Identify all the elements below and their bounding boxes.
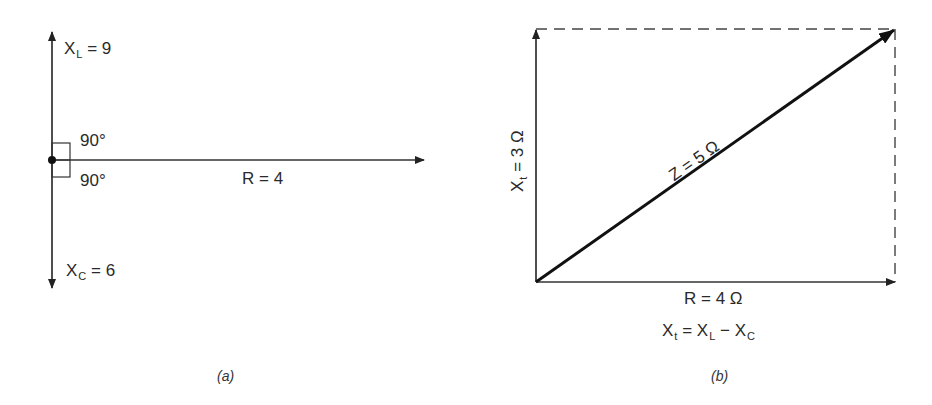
- panel-a: [48, 32, 424, 288]
- xt-formula: Xt = XL − XC: [662, 322, 755, 342]
- r-label-b: R = 4 Ω: [684, 290, 743, 307]
- origin-dot: [48, 156, 56, 164]
- caption-a: (a): [217, 368, 234, 384]
- phasor-diagrams: [0, 0, 932, 405]
- caption-b: (b): [711, 368, 728, 384]
- r-label-a: R = 4: [242, 170, 283, 187]
- angle-lower-label: 90°: [80, 172, 106, 189]
- xc-label: XC = 6: [66, 262, 115, 282]
- xl-label: XL = 9: [64, 40, 111, 60]
- angle-upper-label: 90°: [80, 132, 106, 149]
- xt-label: Xt = 3 Ω: [509, 130, 529, 192]
